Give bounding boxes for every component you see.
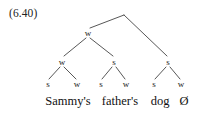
tree-edge xyxy=(49,67,60,79)
tree-edge xyxy=(124,15,167,56)
terminal-word-1: father's xyxy=(102,95,138,108)
tree-node-terminal-1: w xyxy=(74,80,81,89)
tree-node-level3-0: w xyxy=(59,58,66,67)
terminal-word-3: Ø xyxy=(179,95,188,108)
terminal-word-0: Sammy's xyxy=(45,95,90,108)
tree-node-terminal-0: s xyxy=(46,80,50,89)
tree-edge xyxy=(155,67,166,79)
tree-node-terminal-5: w xyxy=(178,80,185,89)
tree-edge xyxy=(64,38,86,56)
tree-edge xyxy=(170,67,180,79)
tree-edge xyxy=(90,38,113,56)
tree-edge xyxy=(90,15,124,28)
tree-node-level2-1: s xyxy=(166,58,170,67)
metrical-tree-figure: (6.40) wswsswswsw Sammy'sfather'sdogØ xyxy=(0,0,215,123)
tree-edge xyxy=(116,67,125,79)
tree-edge xyxy=(102,67,112,79)
tree-node-terminal-2: s xyxy=(99,80,103,89)
tree-node-level2-0: w xyxy=(85,29,92,38)
tree-node-terminal-4: s xyxy=(152,80,156,89)
tree-node-terminal-3: w xyxy=(123,80,130,89)
tree-edge xyxy=(64,67,76,79)
terminal-word-2: dog xyxy=(151,95,170,108)
tree-node-level3-1: s xyxy=(112,58,116,67)
